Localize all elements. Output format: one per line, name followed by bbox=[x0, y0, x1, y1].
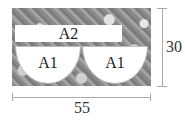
width-label: 55 bbox=[74, 99, 90, 117]
height-label: 30 bbox=[166, 38, 182, 56]
width-dimension-line bbox=[12, 97, 151, 98]
height-dimension-line bbox=[162, 8, 163, 86]
piece-a2: A2 bbox=[15, 25, 122, 42]
width-tick-left bbox=[12, 93, 13, 101]
width-tick-right bbox=[150, 93, 151, 101]
height-tick-bottom bbox=[157, 86, 167, 87]
height-tick-top bbox=[157, 8, 167, 9]
